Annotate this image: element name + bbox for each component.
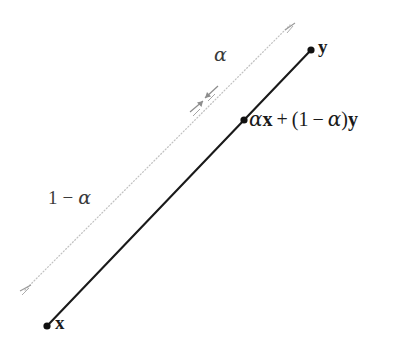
expression-minus: − xyxy=(312,108,323,130)
point-label-y-text: y xyxy=(318,36,328,57)
annotation-one-minus-alpha: 1−α xyxy=(48,188,91,207)
convex-combination-expression: αx+(1−α)y xyxy=(249,109,358,129)
expression-vector-y: y xyxy=(348,108,358,130)
expression-paren-close: ) xyxy=(341,108,348,130)
measure-line xyxy=(25,25,290,290)
expression-vector-x: x xyxy=(263,108,273,130)
point-marker-combination xyxy=(240,116,247,123)
annotation-alpha-text-2: α xyxy=(78,186,91,208)
annotation-alpha-text: α xyxy=(214,43,227,65)
point-marker-y xyxy=(307,46,314,53)
convex-combination-figure: x y αx+(1−α)y α 1−α xyxy=(0,0,417,352)
annotation-one: 1 xyxy=(48,187,58,208)
expression-plus: + xyxy=(277,108,288,130)
expression-one: 1 xyxy=(298,108,308,130)
point-label-y: y xyxy=(318,37,328,56)
annotation-alpha: α xyxy=(214,45,227,64)
annotation-minus: − xyxy=(63,187,74,208)
point-marker-x xyxy=(43,322,50,329)
point-label-x: x xyxy=(55,313,65,332)
expression-alpha-1: α xyxy=(249,107,263,131)
expression-alpha-2: α xyxy=(328,107,342,131)
point-label-x-text: x xyxy=(55,312,65,333)
figure-canvas xyxy=(0,0,417,352)
